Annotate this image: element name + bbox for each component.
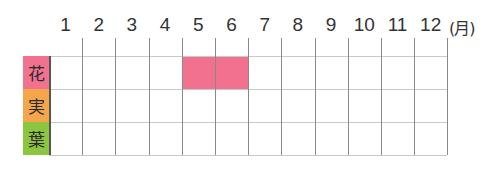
grid-vline	[281, 38, 282, 155]
unit-label: (月)	[449, 15, 474, 39]
row-label: 実	[23, 89, 49, 122]
grid-vline	[82, 38, 83, 155]
grid-vline	[49, 56, 51, 155]
filled-cell	[182, 56, 215, 89]
filled-cell	[215, 56, 248, 89]
month-label: 1	[49, 14, 82, 36]
month-label: 12	[414, 14, 447, 36]
month-label: 11	[381, 14, 414, 36]
month-label: 6	[215, 14, 248, 36]
month-label: 8	[281, 14, 314, 36]
row-label: 葉	[23, 122, 49, 155]
grid-vline	[149, 38, 150, 155]
grid-vline	[115, 38, 116, 155]
grid-vline	[315, 38, 316, 155]
grid-vline	[381, 38, 382, 155]
month-label: 7	[248, 14, 281, 36]
month-label: 5	[182, 14, 215, 36]
row-label: 花	[23, 56, 49, 89]
month-chart: 123456789101112 (月) 花実葉	[0, 0, 491, 173]
month-label: 10	[348, 14, 381, 36]
month-label: 9	[315, 14, 348, 36]
month-label: 4	[149, 14, 182, 36]
month-label: 2	[82, 14, 115, 36]
grid-vline	[215, 38, 216, 155]
grid-vline	[414, 38, 415, 155]
grid-hline	[49, 155, 447, 156]
grid-vline	[447, 38, 448, 155]
grid-vline	[248, 38, 249, 155]
grid-vline	[182, 38, 183, 155]
month-label: 3	[115, 14, 148, 36]
grid-vline	[348, 38, 349, 155]
